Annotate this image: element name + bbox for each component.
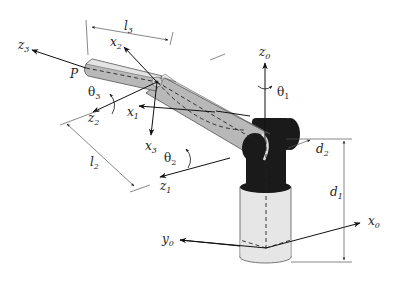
dimension-lines <box>60 20 352 262</box>
label-d2: d2 <box>316 142 329 158</box>
label-x0: x0 <box>368 214 380 230</box>
elbow-joint <box>242 133 268 163</box>
label-z0: z0 <box>258 45 270 61</box>
base-cylinder <box>240 181 291 263</box>
label-theta3: θ3 <box>88 85 100 101</box>
label-z1: z1 <box>159 179 171 195</box>
label-z3: z3 <box>17 38 29 54</box>
label-l3: l3 <box>124 19 133 35</box>
label-l2: l2 <box>90 155 99 171</box>
label-x3: x3 <box>145 139 157 155</box>
label-y0: y0 <box>161 232 174 248</box>
label-theta1: θ1 <box>277 85 289 101</box>
label-d1: d1 <box>330 185 343 201</box>
labels: z3 l3 x2 P θ3 z2 x1 x3 l2 θ2 z1 z0 θ1 d2… <box>17 19 380 248</box>
robot-arm-diagram: z3 l3 x2 P θ3 z2 x1 x3 l2 θ2 z1 z0 θ1 d2… <box>0 0 398 284</box>
z2-axis <box>93 82 157 112</box>
label-P: P <box>69 67 79 81</box>
label-theta2: θ2 <box>164 151 176 167</box>
label-x2: x2 <box>110 35 122 51</box>
label-x1: x1 <box>127 105 139 121</box>
label-z2: z2 <box>87 111 99 127</box>
coordinate-axes <box>32 47 360 248</box>
z3-axis <box>32 50 86 68</box>
